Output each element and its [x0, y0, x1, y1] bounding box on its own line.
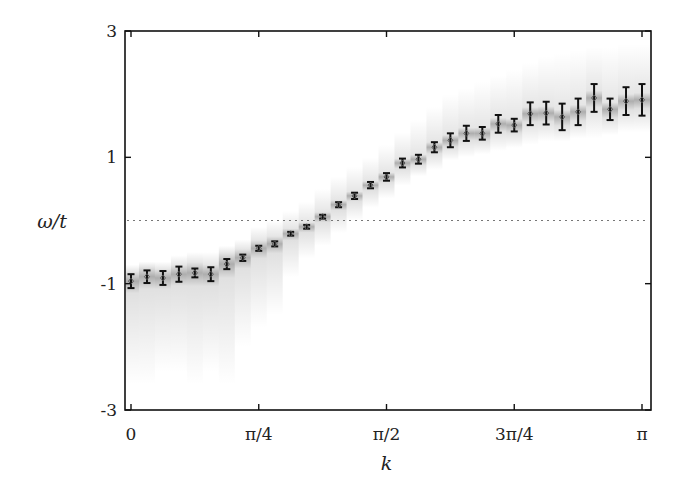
spectral-column: [442, 94, 458, 160]
data-point: [239, 255, 246, 261]
x-tick-label: π/2: [373, 424, 401, 444]
data-point: [287, 231, 294, 237]
spectral-column: [426, 107, 442, 170]
spectral-column: [379, 145, 395, 199]
spectral-shading: [126, 44, 650, 385]
y-axis-label: ω/t: [37, 210, 67, 232]
data-point: [367, 182, 374, 188]
spectral-column: [538, 56, 554, 141]
y-tick-label: -1: [100, 274, 117, 294]
y-tick-label: -3: [100, 400, 117, 420]
y-tick-label: 1: [106, 147, 117, 167]
spectral-column: [506, 69, 522, 148]
data-point: [271, 241, 278, 247]
data-point: [255, 245, 262, 251]
y-tick-label: 3: [106, 21, 117, 41]
x-tick-label: π: [636, 424, 647, 444]
spectral-column: [602, 47, 618, 135]
spectral-column: [410, 119, 426, 176]
data-point: [351, 193, 358, 199]
spectral-column: [474, 82, 490, 155]
data-point: [319, 214, 326, 220]
spectral-column: [267, 221, 283, 316]
x-tick-label: 0: [126, 424, 137, 444]
x-tick-label: π/4: [245, 424, 273, 444]
data-point: [335, 202, 342, 208]
chart: 0π/4π/23π/4π31-1-3 k ω/t: [0, 0, 683, 492]
data-point: [303, 224, 310, 230]
spectral-column: [251, 227, 267, 328]
spectral-column: [490, 75, 506, 151]
spectral-column: [458, 88, 474, 157]
x-tick-label: 3π/4: [495, 424, 534, 444]
x-axis-label: k: [381, 452, 393, 474]
